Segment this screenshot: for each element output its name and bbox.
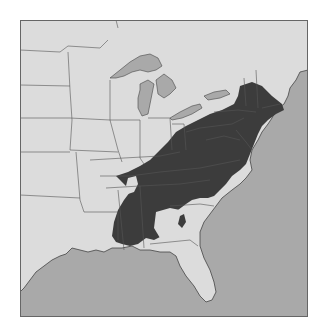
map-frame bbox=[20, 20, 308, 317]
